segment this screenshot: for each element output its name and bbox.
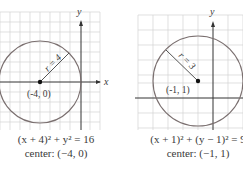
center-label-right: (-1, 1)	[166, 85, 190, 96]
equation-left: (x + 4)² + y² = 16	[6, 133, 106, 145]
center-caption-left: center: (−4, 0)	[6, 147, 106, 159]
x-axis-label: x	[103, 76, 109, 87]
graph-right: y r = 3 (-1, 1)	[135, 6, 243, 130]
center-point-right	[196, 79, 200, 83]
center-label-left: (-4, 0)	[27, 89, 51, 100]
center-caption-right: center: (−1, 1)	[143, 147, 243, 159]
y-axis-arrow-icon	[211, 21, 215, 27]
y-axis-label: y	[76, 6, 82, 17]
y-axis-arrow-icon	[79, 20, 83, 26]
radius-label-right: r = 3	[177, 50, 198, 71]
y-axis-label: y	[209, 6, 215, 17]
equation-right: (x + 1)² + (y − 1)² = 9	[143, 133, 243, 145]
center-point-left	[38, 80, 42, 84]
graph-left: x y r = 4 (-4, 0)	[0, 6, 109, 130]
